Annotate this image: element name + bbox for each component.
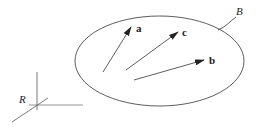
reference-frame: R <box>12 72 83 122</box>
vector-b: b <box>134 54 215 80</box>
vector-diagram: R B a c b <box>0 0 256 129</box>
body-label: B <box>236 5 243 17</box>
body-ellipse-group: B <box>75 5 244 106</box>
vector-a-label: a <box>136 22 142 34</box>
frame-label: R <box>18 93 26 105</box>
arrow-c-icon <box>126 32 178 70</box>
vector-a: a <box>103 22 142 72</box>
arrow-b-icon <box>134 60 204 80</box>
body-label-leader <box>218 17 236 30</box>
vector-b-label: b <box>209 54 215 66</box>
vector-c-label: c <box>182 26 187 38</box>
frame-axis-diagonal <box>12 98 48 122</box>
arrow-a-icon <box>103 27 131 72</box>
